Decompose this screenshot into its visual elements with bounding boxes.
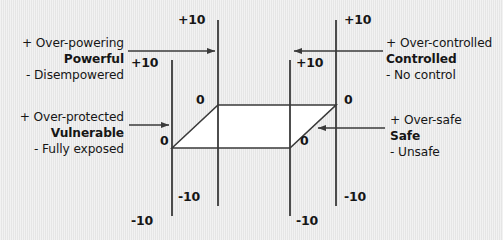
cube-top-face <box>172 105 336 148</box>
callout-controlled: + Over-controlled Controlled - No contro… <box>386 36 503 84</box>
callout-safe-core: Safe <box>390 129 502 145</box>
callout-powerful-positive: + Over-powering <box>0 36 124 52</box>
callout-controlled-positive: + Over-controlled <box>386 36 503 52</box>
axis-label-back-right-bottom: -10 <box>344 189 366 205</box>
callout-vulnerable-positive: + Over-protected <box>0 110 124 126</box>
axis-label-zero-front-right: 0 <box>300 133 309 149</box>
callout-powerful-negative: - Disempowered <box>0 68 124 84</box>
callout-vulnerable: + Over-protected Vulnerable - Fully expo… <box>0 110 124 158</box>
callout-safe-positive: + Over-safe <box>390 113 502 129</box>
axis-label-front-right-top: +10 <box>296 55 323 71</box>
axis-label-zero-back-right: 0 <box>344 92 353 108</box>
callout-safe: + Over-safe Safe - Unsafe <box>390 113 502 161</box>
callout-powerful: + Over-powering Powerful - Disempowered <box>0 36 124 84</box>
axis-label-back-right-top: +10 <box>344 12 371 28</box>
callout-controlled-negative: - No control <box>386 68 503 84</box>
axis-label-zero-back-left: 0 <box>196 92 205 108</box>
callout-vulnerable-negative: - Fully exposed <box>0 142 124 158</box>
callout-controlled-core: Controlled <box>386 52 503 68</box>
callout-powerful-core: Powerful <box>0 52 124 68</box>
diagram-canvas: +10 -10 +10 -10 +10 -10 +10 -10 0 0 0 0 … <box>0 0 503 240</box>
axis-label-front-right-bottom: -10 <box>296 213 318 229</box>
axis-label-front-left-top: +10 <box>131 55 158 71</box>
callout-safe-negative: - Unsafe <box>390 145 502 161</box>
callout-vulnerable-core: Vulnerable <box>0 126 124 142</box>
axis-label-front-left-bottom: -10 <box>131 213 153 229</box>
axis-label-back-left-bottom: -10 <box>178 189 200 205</box>
axis-label-back-left-top: +10 <box>178 12 205 28</box>
axis-label-zero-front-left: 0 <box>160 133 169 149</box>
